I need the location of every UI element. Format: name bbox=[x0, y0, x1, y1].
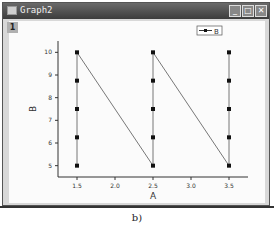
x-tick-label: 2.0 bbox=[110, 182, 120, 189]
data-point bbox=[151, 107, 155, 111]
y-tick-label: 8 bbox=[48, 94, 52, 101]
x-tick-label: 2.5 bbox=[148, 182, 158, 189]
separator bbox=[0, 206, 274, 208]
y-tick-label: 5 bbox=[48, 162, 52, 169]
title-bar[interactable]: Graph2 _ □ ✕ bbox=[3, 3, 269, 19]
graph-app-icon[interactable] bbox=[7, 6, 17, 15]
x-axis-label: A bbox=[150, 191, 157, 201]
data-point bbox=[151, 50, 155, 54]
y-tick-label: 10 bbox=[44, 48, 52, 55]
data-point bbox=[227, 79, 231, 83]
legend-label: B bbox=[214, 28, 219, 36]
y-axis-label: B bbox=[28, 106, 38, 112]
data-point bbox=[151, 135, 155, 139]
data-point bbox=[151, 164, 155, 168]
figure-caption: b) bbox=[0, 212, 274, 223]
data-point bbox=[75, 79, 79, 83]
x-tick-label: 3.5 bbox=[224, 182, 234, 189]
y-tick-label: 7 bbox=[48, 116, 52, 123]
window-title: Graph2 bbox=[20, 5, 53, 15]
data-point bbox=[227, 135, 231, 139]
maximize-button[interactable]: □ bbox=[242, 5, 254, 17]
layer-indicator[interactable]: 1 bbox=[7, 22, 18, 33]
minimize-button[interactable]: _ bbox=[229, 5, 241, 17]
legend-marker bbox=[204, 29, 207, 32]
y-tick-label: 6 bbox=[48, 139, 52, 146]
data-point bbox=[75, 50, 79, 54]
graph-page: 1.52.02.53.03.55678910ABB bbox=[9, 21, 265, 203]
close-button[interactable]: ✕ bbox=[255, 5, 267, 17]
x-tick-label: 1.5 bbox=[72, 182, 82, 189]
data-point bbox=[227, 164, 231, 168]
data-point bbox=[75, 164, 79, 168]
y-tick-label: 9 bbox=[48, 71, 52, 78]
graph-window: Graph2 _ □ ✕ 1.52.02.53.03.55678910ABB 1 bbox=[2, 2, 270, 206]
data-point bbox=[75, 107, 79, 111]
data-point bbox=[227, 107, 231, 111]
data-point bbox=[75, 135, 79, 139]
data-point bbox=[151, 79, 155, 83]
data-point bbox=[227, 50, 231, 54]
plot-area[interactable]: 1.52.02.53.03.55678910ABB bbox=[9, 21, 265, 203]
x-tick-label: 3.0 bbox=[186, 182, 196, 189]
